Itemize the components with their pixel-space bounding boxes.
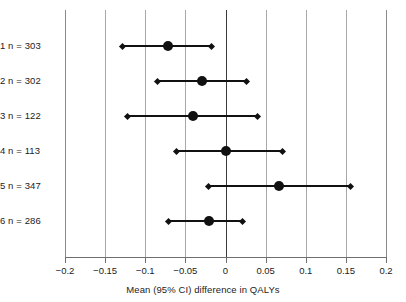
plot-left-border: [65, 10, 66, 258]
row-label-6: 6 n = 286: [0, 215, 62, 226]
ci-cap-upper-3: [254, 112, 261, 119]
point-estimate-1: [163, 41, 173, 51]
x-axis-tick: [226, 258, 227, 263]
point-estimate-3: [188, 111, 198, 121]
forest-plot-figure: −0.2−0.15−0.1−0.0500.050.10.150.2 1 n = …: [0, 0, 406, 302]
x-axis-tick: [185, 258, 186, 263]
x-axis-tick-label: −0.1: [136, 265, 155, 276]
point-estimate-4: [221, 146, 231, 156]
x-axis-tick-label: 0.15: [337, 265, 356, 276]
ci-cap-upper-5: [347, 182, 354, 189]
ci-cap-lower-1: [119, 42, 126, 49]
x-axis-title: Mean (95% CI) difference in QALYs: [0, 284, 406, 295]
gridline: [346, 10, 347, 258]
row-label-5: 5 n = 347: [0, 180, 62, 191]
ci-cap-upper-4: [279, 147, 286, 154]
plot-area: [65, 10, 387, 258]
x-axis-tick: [145, 258, 146, 263]
x-axis-tick: [266, 258, 267, 263]
x-axis-tick-label: 0.05: [256, 265, 275, 276]
gridline: [105, 10, 106, 258]
ci-cap-lower-4: [173, 147, 180, 154]
row-label-1: 1 n = 303: [0, 40, 62, 51]
row-label-4: 4 n = 113: [0, 145, 62, 156]
x-axis-tick: [346, 258, 347, 263]
point-estimate-5: [274, 181, 284, 191]
gridline: [145, 10, 146, 258]
gridline: [306, 10, 307, 258]
x-axis-tick: [105, 258, 106, 263]
x-axis-tick: [386, 258, 387, 263]
ci-cap-lower-6: [165, 217, 172, 224]
ci-cap-upper-1: [208, 42, 215, 49]
ci-cap-lower-5: [205, 182, 212, 189]
x-axis-tick-label: −0.15: [93, 265, 117, 276]
x-axis-tick: [65, 258, 66, 263]
x-axis-tick-label: 0.1: [299, 265, 312, 276]
ci-cap-upper-6: [239, 217, 246, 224]
x-axis-tick-label: −0.05: [173, 265, 197, 276]
gridline: [266, 10, 267, 258]
row-label-2: 2 n = 302: [0, 75, 62, 86]
ci-cap-upper-2: [243, 77, 250, 84]
x-axis-tick-label: 0.2: [379, 265, 392, 276]
x-axis-tick: [306, 258, 307, 263]
x-axis-tick-label: 0: [223, 265, 228, 276]
row-labels: 1 n = 3032 n = 3023 n = 1224 n = 1135 n …: [0, 0, 62, 302]
ci-cap-lower-2: [154, 77, 161, 84]
point-estimate-6: [204, 216, 214, 226]
plot-right-border: [386, 10, 387, 258]
row-label-3: 3 n = 122: [0, 110, 62, 121]
ci-cap-lower-3: [124, 112, 131, 119]
point-estimate-2: [197, 76, 207, 86]
